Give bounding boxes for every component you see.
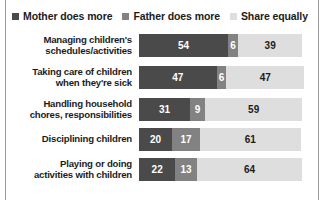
chart-bar-row: Disciplining children201761 xyxy=(8,126,312,152)
legend-entry[interactable]: Father does more xyxy=(122,10,220,22)
legend-square-icon xyxy=(122,13,129,20)
category-label-line: activities with children xyxy=(8,169,132,180)
chart-legend: Mother does moreFather does moreShare eq… xyxy=(12,8,312,24)
category-label-line: schedules/activities xyxy=(8,45,132,56)
bar-value-label: 64 xyxy=(244,164,255,175)
bar-value-label: 9 xyxy=(195,104,201,115)
legend-square-icon xyxy=(230,13,237,20)
bar-value-label: 13 xyxy=(180,164,191,175)
bar-value-label: 20 xyxy=(150,134,161,145)
category-label-line: Disciplining children xyxy=(8,133,132,144)
bar-value-label: 17 xyxy=(180,134,191,145)
stacked-bar: 201761 xyxy=(139,128,304,151)
category-label-line: Managing children's xyxy=(8,34,132,45)
bar-value-label: 59 xyxy=(248,104,259,115)
chart-bar-row: Managing children'sschedules/activities5… xyxy=(8,30,312,60)
chart-right-border xyxy=(318,0,319,200)
bar-segment-father: 17 xyxy=(172,128,200,151)
chart-bar-row: Taking care of childrenwhen they're sick… xyxy=(8,62,312,92)
stacked-bar: 54639 xyxy=(139,34,304,57)
category-label: Disciplining children xyxy=(8,133,139,144)
chart-bar-row: Handling householdchores, responsibiliti… xyxy=(8,94,312,124)
category-label-line: Playing or doing xyxy=(8,158,132,169)
bar-value-label: 47 xyxy=(172,72,183,83)
category-label: Playing or doingactivities with children xyxy=(8,158,139,181)
chart-left-border xyxy=(5,0,6,200)
bar-segment-equally: 47 xyxy=(226,66,304,89)
legend-label: Share equally xyxy=(241,10,308,22)
chart-bar-row: Playing or doingactivities with children… xyxy=(8,154,312,184)
bar-value-label: 22 xyxy=(152,164,163,175)
stacked-bar: 47647 xyxy=(139,66,304,89)
stacked-bar: 221364 xyxy=(139,158,304,181)
legend-entry[interactable]: Mother does more xyxy=(12,10,112,22)
bar-segment-mother: 54 xyxy=(139,34,228,57)
bar-segment-mother: 20 xyxy=(139,128,172,151)
bar-segment-mother: 22 xyxy=(139,158,175,181)
category-label-line: chores, responsibilities xyxy=(8,109,132,120)
category-label-line: when they're sick xyxy=(8,77,132,88)
bar-segment-mother: 31 xyxy=(139,98,190,121)
legend-label: Father does more xyxy=(133,10,220,22)
category-label: Taking care of childrenwhen they're sick xyxy=(8,66,139,89)
bar-value-label: 6 xyxy=(230,40,236,51)
category-label: Handling householdchores, responsibiliti… xyxy=(8,98,139,121)
bar-segment-father: 9 xyxy=(190,98,205,121)
stacked-bar-chart: Mother does moreFather does moreShare eq… xyxy=(0,0,325,200)
bar-segment-mother: 47 xyxy=(139,66,217,89)
chart-plot-area: Managing children'sschedules/activities5… xyxy=(8,28,312,196)
bar-segment-equally: 64 xyxy=(197,158,303,181)
legend-entry[interactable]: Share equally xyxy=(230,10,308,22)
bar-segment-equally: 59 xyxy=(205,98,302,121)
bar-value-label: 47 xyxy=(260,72,271,83)
bar-segment-equally: 61 xyxy=(200,128,301,151)
category-label-line: Taking care of children xyxy=(8,66,132,77)
bar-value-label: 31 xyxy=(159,104,170,115)
category-label-line: Handling household xyxy=(8,98,132,109)
bar-segment-father: 13 xyxy=(175,158,196,181)
legend-square-icon xyxy=(12,13,19,20)
bar-value-label: 6 xyxy=(219,72,225,83)
bar-segment-father: 6 xyxy=(228,34,238,57)
stacked-bar: 31959 xyxy=(139,98,304,121)
bar-value-label: 39 xyxy=(265,40,276,51)
bar-value-label: 61 xyxy=(245,134,256,145)
bar-segment-equally: 39 xyxy=(238,34,302,57)
bar-segment-father: 6 xyxy=(217,66,227,89)
category-label: Managing children'sschedules/activities xyxy=(8,34,139,57)
bar-value-label: 54 xyxy=(178,40,189,51)
legend-label: Mother does more xyxy=(23,10,112,22)
